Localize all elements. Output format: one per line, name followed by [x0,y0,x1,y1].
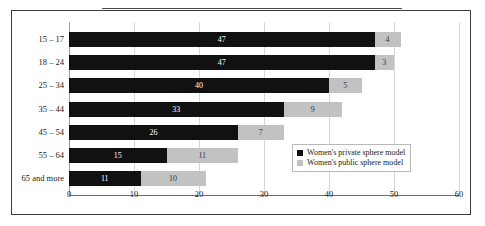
document-top-rule [102,8,402,9]
bar-row: 267 [69,125,459,140]
bar-segment-private: 33 [69,102,284,117]
bar-segment-private: 40 [69,78,329,93]
legend-label: Women's public sphere model [307,158,403,168]
category-axis-labels: 15 – 1718 – 2425 – 3435 – 4445 – 5455 – … [12,22,64,196]
bar-segment-private: 15 [69,148,167,163]
legend-item: Women's private sphere model [297,148,405,158]
gridline [459,22,460,196]
category-label: 18 – 24 [0,57,64,67]
category-label: 15 – 17 [0,34,64,44]
chart-figure-frame: 15 – 1718 – 2425 – 3435 – 4445 – 5455 – … [11,10,471,215]
legend-swatch-public [297,160,303,166]
bar-row: 1110 [69,171,459,186]
bar-segment-private: 47 [69,55,375,70]
category-label: 35 – 44 [0,104,64,114]
category-label: 65 and more [0,173,64,183]
legend-item: Women's public sphere model [297,158,405,168]
bar-row: 405 [69,78,459,93]
bar-segment-private: 26 [69,125,238,140]
category-label: 55 – 64 [0,150,64,160]
chart-legend: Women's private sphere model Women's pub… [292,144,411,172]
bar-row: 339 [69,102,459,117]
bar-row: 474 [69,32,459,47]
bar-segment-public: 7 [238,125,284,140]
bar-segment-public: 11 [167,148,239,163]
bar-segment-private: 47 [69,32,375,47]
bar-segment-public: 3 [375,55,395,70]
category-label: 45 – 54 [0,127,64,137]
bar-segment-public: 5 [329,78,362,93]
category-label: 25 – 34 [0,80,64,90]
bar-segment-public: 4 [375,32,401,47]
bar-segment-private: 11 [69,171,141,186]
bar-segment-public: 10 [141,171,206,186]
legend-swatch-private [297,150,303,156]
legend-label: Women's private sphere model [307,148,405,158]
bar-row: 473 [69,55,459,70]
bar-segment-public: 9 [284,102,343,117]
